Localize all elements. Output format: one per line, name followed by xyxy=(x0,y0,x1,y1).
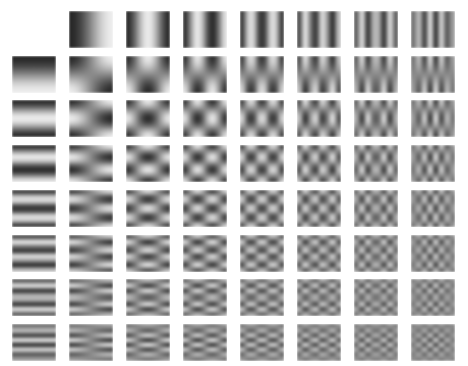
dct-tile-5-3 xyxy=(297,145,341,182)
dct-tile-3-4 xyxy=(183,190,227,227)
dct-tile-5-2 xyxy=(297,100,341,137)
dct-tile-5-4 xyxy=(297,190,341,227)
dct-tile-6-5 xyxy=(354,235,398,272)
dct-tile-3-3 xyxy=(183,145,227,182)
dct-tile-6-0 xyxy=(354,11,398,48)
dct-tile-1-5 xyxy=(69,235,113,272)
dct-tile-0-3 xyxy=(12,145,56,182)
dct-tile-1-6 xyxy=(69,279,113,316)
dct-tile-6-4 xyxy=(354,190,398,227)
dct-tile-1-1 xyxy=(69,56,113,93)
dct-tile-0-0-blank xyxy=(12,11,56,48)
dct-tile-3-2 xyxy=(183,100,227,137)
dct-tile-4-2 xyxy=(240,100,284,137)
dct-tile-0-5 xyxy=(12,235,56,272)
dct-tile-7-6 xyxy=(411,279,455,316)
dct-tile-4-0 xyxy=(240,11,284,48)
dct-tile-5-5 xyxy=(297,235,341,272)
dct-tile-7-5 xyxy=(411,235,455,272)
dct-tile-4-6 xyxy=(240,279,284,316)
dct-tile-4-1 xyxy=(240,56,284,93)
dct-tile-0-2 xyxy=(12,100,56,137)
dct-tile-4-4 xyxy=(240,190,284,227)
dct-tile-2-7 xyxy=(126,324,170,361)
dct-tile-3-1 xyxy=(183,56,227,93)
dct-tile-6-7 xyxy=(354,324,398,361)
dct-tile-4-5 xyxy=(240,235,284,272)
dct-tile-3-7 xyxy=(183,324,227,361)
dct-tile-7-3 xyxy=(411,145,455,182)
dct-tile-6-1 xyxy=(354,56,398,93)
dct-tile-2-1 xyxy=(126,56,170,93)
dct-tile-3-0 xyxy=(183,11,227,48)
dct-tile-1-7 xyxy=(69,324,113,361)
dct-tile-7-1 xyxy=(411,56,455,93)
dct-tile-4-3 xyxy=(240,145,284,182)
dct-tile-6-6 xyxy=(354,279,398,316)
dct-tile-2-3 xyxy=(126,145,170,182)
dct-tile-0-6 xyxy=(12,279,56,316)
dct-tile-7-7 xyxy=(411,324,455,361)
dct-tile-1-4 xyxy=(69,190,113,227)
dct-tile-5-6 xyxy=(297,279,341,316)
dct-tile-2-4 xyxy=(126,190,170,227)
dct-tile-0-4 xyxy=(12,190,56,227)
dct-tile-3-6 xyxy=(183,279,227,316)
dct-tile-2-6 xyxy=(126,279,170,316)
dct-tile-6-2 xyxy=(354,100,398,137)
dct-tile-1-0 xyxy=(69,11,113,48)
dct-tile-5-0 xyxy=(297,11,341,48)
dct-basis-grid xyxy=(0,0,468,366)
dct-tile-5-1 xyxy=(297,56,341,93)
dct-tile-3-5 xyxy=(183,235,227,272)
dct-tile-7-0 xyxy=(411,11,455,48)
dct-tile-5-7 xyxy=(297,324,341,361)
dct-tile-2-5 xyxy=(126,235,170,272)
dct-tile-7-2 xyxy=(411,100,455,137)
dct-tile-0-1 xyxy=(12,56,56,93)
dct-tile-2-0 xyxy=(126,11,170,48)
dct-tile-6-3 xyxy=(354,145,398,182)
dct-tile-0-7 xyxy=(12,324,56,361)
dct-tile-4-7 xyxy=(240,324,284,361)
dct-tile-7-4 xyxy=(411,190,455,227)
dct-tile-2-2 xyxy=(126,100,170,137)
dct-tile-1-3 xyxy=(69,145,113,182)
dct-tile-1-2 xyxy=(69,100,113,137)
